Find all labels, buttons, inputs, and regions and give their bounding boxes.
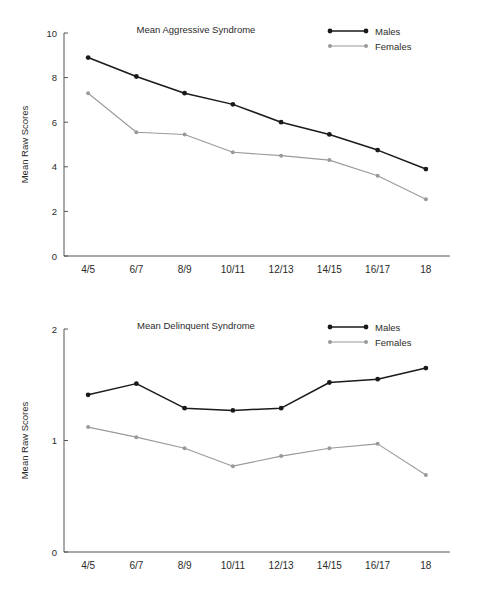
data-point: [231, 464, 235, 468]
chart-mean-aggressive-syndrome: 02468104/56/78/910/1112/1314/1516/1718Me…: [0, 0, 488, 296]
y-tick-label: 10: [46, 28, 57, 39]
legend-marker: [364, 44, 368, 48]
x-tick-label: 18: [420, 264, 432, 275]
y-tick-label: 6: [52, 117, 57, 128]
series-line-females: [88, 427, 426, 475]
legend-marker: [328, 29, 333, 34]
data-point: [230, 102, 235, 107]
y-tick-label: 4: [52, 161, 57, 172]
data-point: [327, 380, 332, 385]
legend-marker: [364, 325, 369, 330]
y-tick-label: 1: [52, 435, 57, 446]
legend-marker: [364, 340, 368, 344]
data-point: [424, 197, 428, 201]
legend-item-males[interactable]: Males: [328, 322, 401, 333]
figure-page: 02468104/56/78/910/1112/1314/1516/1718Me…: [0, 0, 488, 592]
legend-item-males[interactable]: Males: [328, 26, 401, 37]
x-tick-label: 6/7: [129, 264, 143, 275]
data-point: [279, 120, 284, 125]
data-point: [86, 425, 90, 429]
legend-marker: [328, 325, 333, 330]
y-tick-label: 2: [52, 206, 57, 217]
legend-label: Females: [375, 337, 412, 348]
legend-label: Males: [375, 322, 401, 333]
data-point: [327, 158, 331, 162]
legend-marker: [328, 44, 332, 48]
y-tick-label: 0: [52, 547, 57, 558]
chart-title: Mean Delinquent Syndrome: [137, 320, 255, 331]
legend-label: Males: [375, 26, 401, 37]
x-tick-label: 8/9: [178, 264, 192, 275]
data-point: [375, 148, 380, 153]
data-point: [182, 91, 187, 96]
x-tick-label: 14/15: [317, 560, 342, 571]
data-point: [230, 408, 235, 413]
y-axis-title: Mean Raw Scores: [19, 105, 30, 183]
chart-canvas-bottom: 0124/56/78/910/1112/1314/1516/1718Mean R…: [0, 296, 488, 592]
x-tick-label: 10/11: [221, 264, 246, 275]
chart-title: Mean Aggressive Syndrome: [137, 24, 256, 35]
data-point: [376, 442, 380, 446]
data-point: [183, 132, 187, 136]
x-tick-label: 12/13: [269, 264, 294, 275]
data-point: [327, 446, 331, 450]
x-tick-label: 18: [420, 560, 432, 571]
data-point: [134, 381, 139, 386]
y-tick-label: 2: [52, 324, 57, 335]
data-point: [375, 377, 380, 382]
data-point: [376, 174, 380, 178]
x-tick-label: 14/15: [317, 264, 342, 275]
data-point: [86, 55, 91, 60]
data-point: [424, 473, 428, 477]
legend-label: Females: [375, 41, 412, 52]
legend-item-females[interactable]: Females: [328, 41, 412, 52]
data-point: [423, 167, 428, 172]
data-point: [86, 392, 91, 397]
x-tick-label: 4/5: [81, 560, 95, 571]
x-tick-label: 4/5: [81, 264, 95, 275]
data-point: [134, 74, 139, 79]
y-tick-label: 8: [52, 72, 57, 83]
x-tick-label: 16/17: [365, 264, 390, 275]
data-point: [279, 154, 283, 158]
legend-item-females[interactable]: Females: [328, 337, 412, 348]
data-point: [279, 454, 283, 458]
chart-mean-delinquent-syndrome: 0124/56/78/910/1112/1314/1516/1718Mean R…: [0, 296, 488, 592]
legend-marker: [328, 340, 332, 344]
data-point: [134, 130, 138, 134]
legend-marker: [364, 29, 369, 34]
data-point: [423, 366, 428, 371]
x-tick-label: 12/13: [269, 560, 294, 571]
chart-canvas-top: 02468104/56/78/910/1112/1314/1516/1718Me…: [0, 0, 488, 296]
data-point: [182, 406, 187, 411]
data-point: [86, 91, 90, 95]
data-point: [231, 150, 235, 154]
data-point: [279, 406, 284, 411]
series-line-females: [88, 93, 426, 199]
x-tick-label: 10/11: [221, 560, 246, 571]
data-point: [183, 446, 187, 450]
x-tick-label: 6/7: [129, 560, 143, 571]
y-axis-title: Mean Raw Scores: [19, 401, 30, 479]
x-tick-label: 8/9: [178, 560, 192, 571]
data-point: [134, 435, 138, 439]
y-tick-label: 0: [52, 251, 57, 262]
series-line-males: [88, 58, 426, 170]
data-point: [327, 132, 332, 137]
x-tick-label: 16/17: [365, 560, 390, 571]
series-line-males: [88, 368, 426, 410]
